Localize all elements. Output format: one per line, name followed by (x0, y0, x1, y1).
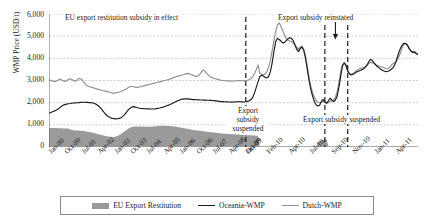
legend-label-dutch-wmp: Dutch-WMP (303, 201, 342, 210)
y-tick-6000: 6,000 (14, 11, 44, 19)
area-swatch-icon (92, 203, 109, 209)
annotation-line-1: Export (227, 106, 269, 115)
legend-label-eu-export-restitution: EU Export Restitution (113, 201, 181, 210)
legend-item-dutch-wmp: Dutch-WMP (282, 201, 342, 210)
series-line-dutch-wmp (49, 23, 418, 103)
legend-item-eu-export-restitution: EU Export Restitution (92, 201, 181, 210)
legend-item-oceania-wmp: Oceania-WMP (198, 201, 265, 210)
annotation-line-3: suspended (227, 124, 269, 133)
y-tick-5000: 5,000 (14, 32, 44, 40)
annotation-export-subsidy-reinstated: Export subsidy reinstated (277, 13, 354, 22)
reinstated-arrow-head (333, 34, 338, 40)
gray-line-swatch-icon (282, 205, 299, 206)
annotation-export-subsidy-suspended-left: Export subsidy suspended (227, 106, 269, 134)
annotation-export-subsidy-suspended-right: Export subsidy suspended (302, 115, 381, 124)
y-tick-3000: 3,000 (14, 76, 44, 84)
y-tick-4000: 4,000 (14, 54, 44, 62)
legend-label-oceania-wmp: Oceania-WMP (219, 201, 265, 210)
chart-figure: WMP Price (USD/t) 6,000 5,000 4,000 3,00… (0, 0, 431, 222)
y-tick-1000: 1,000 (14, 120, 44, 128)
dark-line-swatch-icon (198, 205, 215, 206)
y-tick-0: 0 (14, 142, 44, 150)
annotation-line-2: subsidy (227, 115, 269, 124)
chart-legend: EU Export Restitution Oceania-WMP Dutch-… (60, 196, 374, 215)
y-tick-2000: 2,000 (14, 98, 44, 106)
annotation-eu-subsidy-in-effect: EU export restitution subsidy in effect (64, 13, 179, 22)
